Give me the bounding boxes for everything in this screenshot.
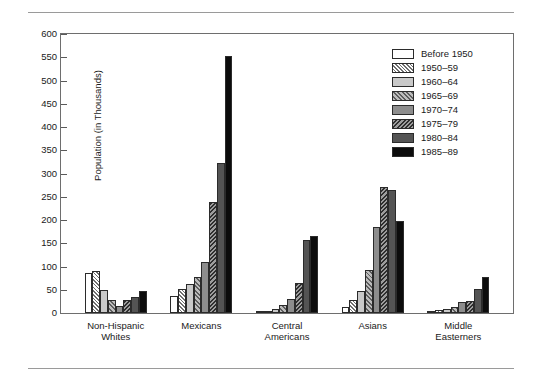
bar[interactable] bbox=[225, 56, 233, 313]
bar[interactable] bbox=[443, 309, 451, 313]
bar[interactable] bbox=[349, 300, 357, 313]
bar[interactable] bbox=[357, 291, 365, 313]
bar[interactable] bbox=[279, 305, 287, 313]
bar[interactable] bbox=[108, 300, 116, 313]
legend-item[interactable]: 1960–64 bbox=[392, 75, 473, 89]
bar[interactable] bbox=[131, 297, 139, 313]
bar[interactable] bbox=[388, 190, 396, 313]
bar[interactable] bbox=[482, 277, 490, 313]
bar[interactable] bbox=[85, 273, 93, 313]
bar[interactable] bbox=[365, 270, 373, 313]
y-axis-tick-label: 300 bbox=[27, 169, 57, 179]
legend-swatch-icon bbox=[392, 119, 414, 129]
bar[interactable] bbox=[194, 277, 202, 313]
legend-swatch-icon bbox=[392, 63, 414, 73]
y-axis-tick-label: 100 bbox=[27, 262, 57, 272]
bar[interactable] bbox=[116, 306, 124, 313]
legend-swatch-icon bbox=[392, 77, 414, 87]
legend-label: 1980–84 bbox=[421, 133, 458, 143]
chart-figure: Population (in Thousands) 05010015020025… bbox=[0, 0, 541, 384]
x-axis-category-label: Middle Easterners bbox=[405, 320, 511, 342]
y-axis-tick-label: 150 bbox=[27, 238, 57, 248]
legend-label: 1965–69 bbox=[421, 91, 458, 101]
bar[interactable] bbox=[100, 290, 108, 313]
bar[interactable] bbox=[123, 300, 131, 313]
y-axis-tick-label: 400 bbox=[27, 122, 57, 132]
bar[interactable] bbox=[186, 284, 194, 313]
legend-item[interactable]: 1975–79 bbox=[392, 117, 473, 131]
bar[interactable] bbox=[295, 283, 303, 313]
y-axis-tick-label: 200 bbox=[27, 215, 57, 225]
legend-label: 1975–79 bbox=[421, 119, 458, 129]
legend-label: 1985–89 bbox=[421, 147, 458, 157]
bar[interactable] bbox=[474, 289, 482, 313]
bar[interactable] bbox=[264, 311, 272, 313]
legend-item[interactable]: 1970–74 bbox=[392, 103, 473, 117]
bar[interactable] bbox=[303, 240, 311, 313]
bar-group bbox=[170, 34, 232, 313]
legend-label: 1950–59 bbox=[421, 63, 458, 73]
y-axis-tick-label: 0 bbox=[27, 308, 57, 318]
bar[interactable] bbox=[287, 299, 295, 313]
bar[interactable] bbox=[380, 187, 388, 313]
bar[interactable] bbox=[170, 296, 178, 313]
bar[interactable] bbox=[209, 202, 217, 313]
bar[interactable] bbox=[178, 289, 186, 313]
legend-item[interactable]: 1985–89 bbox=[392, 145, 473, 159]
bar[interactable] bbox=[342, 307, 350, 314]
chart-legend: Before 19501950–591960–641965–691970–741… bbox=[388, 44, 477, 162]
legend-item[interactable]: 1965–69 bbox=[392, 89, 473, 103]
y-axis-tick-label: 600 bbox=[27, 29, 57, 39]
bar[interactable] bbox=[139, 291, 147, 313]
legend-item[interactable]: 1980–84 bbox=[392, 131, 473, 145]
bar[interactable] bbox=[373, 227, 381, 313]
top-divider-rule bbox=[28, 12, 514, 13]
bar[interactable] bbox=[256, 311, 264, 313]
bar-group bbox=[85, 34, 147, 313]
bar[interactable] bbox=[217, 163, 225, 313]
y-axis-tick-label: 550 bbox=[27, 52, 57, 62]
y-axis-tick-label: 450 bbox=[27, 99, 57, 109]
y-axis-tick-label: 350 bbox=[27, 145, 57, 155]
bar[interactable] bbox=[396, 221, 404, 313]
bar-group bbox=[256, 34, 318, 313]
bar[interactable] bbox=[272, 309, 280, 313]
legend-label: Before 1950 bbox=[421, 49, 473, 59]
bar[interactable] bbox=[458, 302, 466, 313]
legend-item[interactable]: 1950–59 bbox=[392, 61, 473, 75]
y-axis-tick-label: 50 bbox=[27, 285, 57, 295]
bar[interactable] bbox=[435, 310, 443, 313]
bar[interactable] bbox=[92, 271, 100, 313]
bottom-divider-rule bbox=[28, 368, 514, 369]
y-axis-tick-label: 250 bbox=[27, 192, 57, 202]
bar[interactable] bbox=[427, 311, 435, 313]
bar[interactable] bbox=[466, 301, 474, 313]
legend-swatch-icon bbox=[392, 105, 414, 115]
bar[interactable] bbox=[310, 236, 318, 313]
y-axis-tick-label: 500 bbox=[27, 76, 57, 86]
legend-swatch-icon bbox=[392, 133, 414, 143]
bar[interactable] bbox=[201, 262, 209, 313]
legend-label: 1960–64 bbox=[421, 77, 458, 87]
legend-swatch-icon bbox=[392, 91, 414, 101]
legend-label: 1970–74 bbox=[421, 105, 458, 115]
legend-swatch-icon bbox=[392, 147, 414, 157]
legend-swatch-icon bbox=[392, 49, 414, 59]
legend-item[interactable]: Before 1950 bbox=[392, 47, 473, 61]
bar[interactable] bbox=[451, 307, 459, 313]
